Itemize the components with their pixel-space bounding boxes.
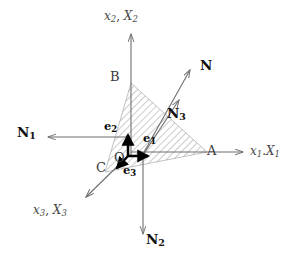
point-label-a: A	[207, 144, 216, 157]
label-traction-n1: N1	[17, 126, 36, 141]
vector-diagram-figure: x2, X2 x1.X1 x3, X3 A B C O N N1 N2 N3 e…	[0, 0, 303, 258]
label-traction-n3: N3	[167, 107, 186, 122]
axis-label-x1: x1.X1	[250, 145, 280, 158]
label-basis-e2: e2	[104, 121, 117, 134]
label-basis-e3: e3	[123, 165, 136, 178]
point-label-c: C	[96, 161, 106, 174]
label-traction-n2: N2	[146, 233, 165, 248]
axis-label-x3: x3, X3	[33, 204, 67, 217]
diagram-canvas	[0, 0, 303, 258]
point-label-b: B	[110, 70, 120, 83]
label-traction-n: N	[200, 59, 212, 74]
label-basis-e1: e1	[143, 133, 156, 146]
axis-label-x2: x2, X2	[104, 10, 138, 23]
